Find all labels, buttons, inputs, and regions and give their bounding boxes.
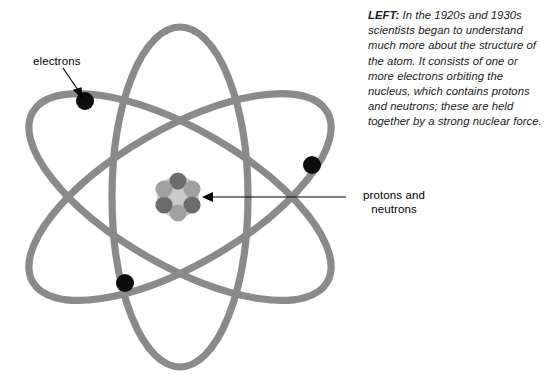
caption-text: LEFT: In the 1920s and 1930s scientists … xyxy=(368,8,544,130)
caption-lead-in: LEFT: xyxy=(368,9,399,21)
label-protons-and-neutrons: protons and neutrons xyxy=(348,188,440,216)
nucleus-particle-upper-left xyxy=(155,180,172,197)
nucleus-particle-upper-right xyxy=(183,180,200,197)
nucleus-particle-lower-left xyxy=(155,196,172,213)
protons-neutrons-pointer-arrow xyxy=(200,178,350,218)
electron-lower-left xyxy=(116,274,134,292)
nucleus xyxy=(155,172,200,221)
electron-right xyxy=(303,156,321,174)
label-electrons: electrons xyxy=(33,55,81,68)
atom-illustration-page: electrons protons and neutrons LEFT: In … xyxy=(0,0,548,387)
caption-body: In the 1920s and 1930s scientists began … xyxy=(368,9,542,127)
